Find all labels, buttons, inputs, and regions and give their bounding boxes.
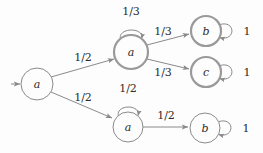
loop-label-right-c: 1 [244, 66, 251, 79]
loop-label-right-b: 1 [244, 25, 251, 38]
node-right-c-label: c [203, 66, 209, 79]
edge-label-upper-a-to-b: 1/3 [154, 25, 172, 38]
node-lower-b-label: b [201, 122, 208, 135]
edge-label-start-to-lower-a: 1/2 [74, 91, 92, 104]
node-mid-upper-a-label: a [128, 46, 135, 59]
loop-label-lower-b: 1 [243, 122, 250, 135]
diagram-svg: a a b c a b 1/2 1/2 1/3 1/3 1/2 1/3 [0, 0, 263, 153]
automaton-diagram: a a b c a b 1/2 1/2 1/3 1/3 1/2 1/3 [0, 0, 263, 153]
node-mid-lower-a-label: a [125, 121, 132, 134]
node-right-b-label: b [202, 25, 209, 38]
node-start-label: a [34, 78, 41, 91]
edge-label-start-to-upper-a: 1/2 [74, 51, 92, 64]
node-right-b[interactable]: b [191, 16, 221, 46]
loop-label-upper-a: 1/3 [122, 5, 140, 18]
node-mid-lower-a[interactable]: a [113, 112, 143, 142]
edge-label-lower-a-to-b: 1/2 [157, 109, 175, 122]
edge-label-upper-a-to-c: 1/3 [154, 66, 172, 79]
node-start[interactable]: a [21, 68, 53, 100]
loop-label-lower-a: 1/2 [119, 82, 137, 95]
node-right-c[interactable]: c [191, 57, 221, 87]
node-mid-upper-a[interactable]: a [114, 35, 148, 69]
node-lower-b[interactable]: b [190, 113, 220, 143]
